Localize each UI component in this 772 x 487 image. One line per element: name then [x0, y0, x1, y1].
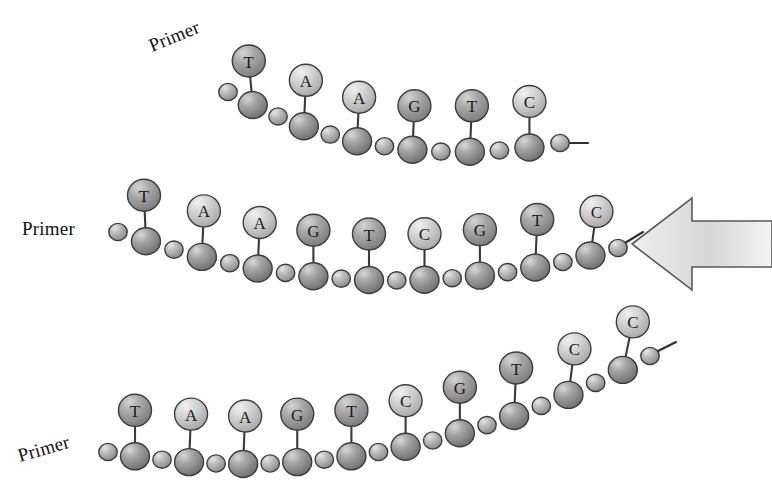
phosphate-sphere — [478, 417, 496, 434]
base-letter: T — [139, 187, 150, 206]
sugar-sphere — [131, 228, 160, 255]
base-letter: T — [532, 211, 543, 230]
base-letter: A — [198, 202, 211, 221]
primer-label: Primer — [146, 16, 203, 55]
phosphate-sphere — [221, 255, 239, 272]
phosphate-sphere — [498, 263, 516, 280]
base-letter: T — [346, 402, 357, 421]
base-letter: T — [511, 360, 522, 379]
base-letter: G — [307, 222, 319, 241]
phosphate-sphere — [432, 143, 450, 160]
strand-top: TAAGTC — [219, 45, 588, 165]
base-letter: C — [524, 93, 535, 112]
sugar-sphere — [187, 243, 216, 270]
sugar-sphere — [391, 433, 420, 460]
phosphate-sphere — [109, 223, 127, 240]
sugar-sphere — [445, 420, 474, 447]
sugar-sphere — [500, 403, 529, 430]
sugar-sphere — [355, 267, 384, 294]
phosphate-sphere — [554, 253, 572, 270]
phosphate-sphere — [99, 443, 117, 460]
phosphate-sphere — [321, 126, 339, 143]
phosphate-sphere — [388, 272, 406, 289]
phosphate-sphere — [332, 270, 350, 287]
phosphate-sphere — [641, 347, 659, 364]
sugar-sphere — [398, 136, 427, 163]
base-letter: C — [419, 225, 430, 244]
base-letter: T — [467, 97, 478, 116]
sugar-sphere — [521, 254, 550, 281]
phosphate-sphere — [276, 264, 294, 281]
sugar-sphere — [343, 128, 372, 155]
base-letter: A — [185, 406, 198, 425]
sugar-sphere — [608, 356, 637, 383]
base-letter: C — [569, 340, 580, 359]
base-letter: G — [408, 97, 420, 116]
base-letter: T — [364, 226, 375, 245]
phosphate-sphere — [369, 443, 387, 460]
primer-label: Primer — [15, 431, 72, 466]
strand-middle: TAAGTCGTC — [109, 179, 643, 293]
sugar-sphere — [283, 449, 312, 476]
base-letter: A — [254, 214, 267, 233]
sugar-sphere — [337, 443, 366, 470]
phosphate-sphere — [165, 241, 183, 258]
phosphate-sphere — [315, 451, 333, 468]
phosphate-sphere — [443, 270, 461, 287]
strand-bottom: TAAGTCGTCC — [99, 306, 676, 478]
primer-label: Primer — [22, 218, 75, 239]
base-letter: T — [130, 402, 141, 421]
sugar-sphere — [465, 262, 494, 289]
sugar-sphere — [410, 266, 439, 293]
phosphate-sphere — [586, 374, 604, 391]
base-letter: T — [244, 53, 255, 72]
diagram-canvas: TAAGTCTAAGTCGTCTAAGTCGTCC PrimerPrimerPr… — [0, 0, 772, 487]
sugar-sphere — [299, 263, 328, 290]
base-letter: G — [454, 379, 466, 398]
dna-strands-figure: TAAGTCTAAGTCGTCTAAGTCGTCC PrimerPrimerPr… — [0, 0, 772, 487]
phosphate-sphere — [490, 142, 508, 159]
sugar-sphere — [175, 449, 204, 476]
strands-layer: TAAGTCTAAGTCGTCTAAGTCGTCC — [99, 45, 676, 477]
left-pointing-arrow — [632, 198, 772, 290]
sugar-sphere — [455, 138, 484, 165]
phosphate-sphere — [532, 397, 550, 414]
phosphate-sphere — [269, 108, 287, 125]
sugar-sphere — [238, 92, 267, 119]
phosphate-sphere — [219, 83, 237, 100]
sugar-sphere — [243, 255, 272, 282]
base-letter: A — [239, 408, 252, 427]
sugar-sphere — [576, 242, 605, 269]
sugar-sphere — [554, 381, 583, 408]
phosphate-sphere — [424, 432, 442, 449]
sugar-sphere — [121, 443, 150, 470]
base-letter: C — [627, 313, 638, 332]
base-letter: G — [474, 221, 486, 240]
base-letter: C — [591, 203, 602, 222]
phosphate-sphere — [153, 451, 171, 468]
phosphate-sphere — [375, 138, 393, 155]
sugar-sphere — [289, 113, 318, 140]
phosphate-sphere — [207, 455, 225, 472]
base-letter: A — [353, 89, 366, 108]
sugar-sphere — [229, 451, 258, 478]
phosphate-sphere — [609, 239, 627, 256]
phosphate-sphere — [261, 455, 279, 472]
phosphate-sphere — [551, 134, 569, 151]
base-letter: A — [300, 72, 313, 91]
base-letter: C — [400, 392, 411, 411]
base-letter: G — [291, 406, 303, 425]
sugar-sphere — [515, 134, 544, 161]
